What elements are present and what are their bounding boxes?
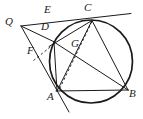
chord-A-B	[56, 90, 129, 91]
geometry-figure: Q E C D F G A B	[0, 0, 143, 119]
tangent-line-through-C	[21, 14, 131, 27]
chord-D-B	[54, 42, 128, 90]
point-label-G: G	[71, 38, 79, 49]
chord-C-B	[92, 21, 128, 91]
point-label-E: E	[44, 4, 51, 15]
point-label-B: B	[129, 88, 136, 99]
point-label-A: A	[47, 91, 54, 102]
point-label-Q: Q	[5, 16, 13, 27]
point-label-C: C	[84, 2, 91, 13]
geometry-canvas	[0, 0, 143, 119]
point-label-D: D	[41, 21, 49, 32]
point-label-F: F	[27, 45, 34, 56]
